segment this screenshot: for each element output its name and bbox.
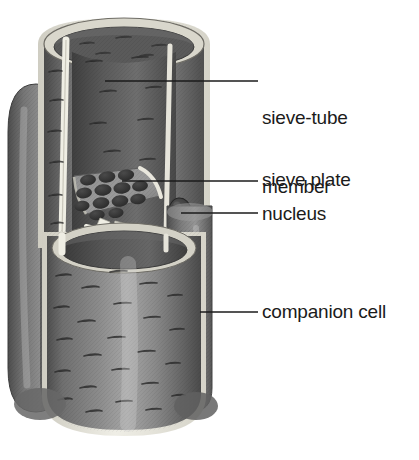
phloem-illustration [0, 0, 419, 460]
label-companion-cell: companion cell [262, 300, 386, 323]
label-nucleus: nucleus [262, 202, 326, 225]
label-sieve-tube-member-line1: sieve-tube [262, 106, 348, 129]
figure-canvas: sieve-tube member sieve plate nucleus co… [0, 0, 419, 460]
label-sieve-plate: sieve plate [262, 168, 351, 191]
